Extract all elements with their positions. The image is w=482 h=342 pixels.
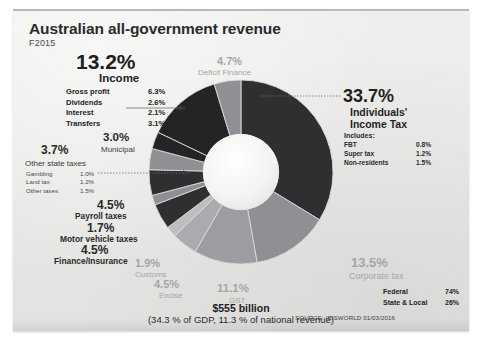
individuals-label-line1: Individuals' [350, 107, 407, 119]
source-attribution: SOURCE: IBISWORLD 01/03/2016 [295, 314, 395, 321]
finance-insurance-label: Finance/Insurance [54, 257, 128, 267]
individuals-income-tax-label: Individuals' Income Tax [350, 107, 407, 130]
row-value: 1.0% [80, 170, 104, 178]
list-item: Gross profit 6.3% [66, 87, 174, 98]
row-value: 26% [445, 297, 469, 308]
other-state-taxes-label: Other state taxes [25, 159, 86, 168]
individuals-label-line2: Income Tax [350, 119, 407, 131]
finance-insurance-percent: 4.5% [81, 244, 108, 256]
list-item: Land tax 1.2% [26, 178, 104, 186]
row-value: 1.5% [80, 187, 104, 195]
table-row: Federal 74% [383, 286, 469, 297]
municipal-label: Municipal [101, 145, 135, 154]
row-value: 1.2% [416, 150, 440, 159]
corporate-tax-label: Corporate tax [349, 271, 404, 281]
row-label: State & Local [383, 297, 427, 308]
customs-percent: 1.9% [135, 258, 160, 269]
table-row: State & Local 26% [383, 297, 469, 308]
row-value: 0.8% [416, 141, 440, 150]
motor-vehicle-taxes-percent: 1.7% [87, 222, 114, 234]
row-label: Gambling [26, 170, 52, 178]
row-label: Federal [383, 286, 408, 297]
gst-percent: 11.1% [217, 283, 249, 295]
row-label: Super tax [344, 150, 374, 159]
row-value: 1.5% [416, 159, 440, 168]
other-state-taxes-percent: 3.7% [41, 144, 68, 156]
donut-center-hole [203, 134, 279, 210]
row-label: FBT [344, 141, 357, 150]
excise-label: Excise [159, 291, 183, 300]
income-breakdown-list: Gross profit 6.3% Dividends 2.6% Interes… [66, 87, 174, 129]
row-value: 1.2% [80, 178, 104, 186]
deficit-finance-percent: 4.7% [217, 56, 242, 67]
row-value: 2.6% [148, 98, 174, 109]
row-label: Interest [66, 108, 93, 119]
row-value: 2.1% [148, 108, 174, 119]
income-label: Income [99, 72, 139, 85]
row-label: Dividends [66, 98, 102, 109]
individuals-income-tax-percent: 33.7% [343, 87, 394, 105]
total-revenue-detail: (34.3 % of GDP, 11.3 % of national reven… [13, 314, 469, 325]
individuals-includes-label: Includes: [344, 132, 375, 139]
excise-percent: 4.5% [154, 279, 179, 290]
row-label: Land tax [26, 178, 50, 186]
list-item: Other taxes 1.5% [26, 187, 104, 195]
row-value: 6.3% [148, 87, 174, 98]
list-item: Transfers 3.1% [66, 119, 174, 130]
federal-state-split-table: Federal 74% State & Local 26% [383, 286, 469, 308]
row-label: Non-residents [344, 159, 388, 168]
list-item: Gambling 1.0% [26, 170, 104, 178]
list-item: Interest 2.1% [66, 108, 174, 119]
row-label: Other taxes [26, 187, 58, 195]
list-item: FBT 0.8% [344, 141, 440, 150]
list-item: Non-residents 1.5% [344, 159, 440, 168]
deficit-finance-label: Deficit Finance [198, 68, 251, 77]
list-item: Super tax 1.2% [344, 150, 440, 159]
row-label: Transfers [66, 119, 100, 130]
infographic-poster: Australian all-government revenue F2015 … [13, 9, 469, 331]
row-label: Gross profit [66, 87, 109, 98]
list-item: Dividends 2.6% [66, 98, 174, 109]
individuals-includes-list: FBT 0.8% Super tax 1.2% Non-residents 1.… [344, 141, 440, 167]
corporate-tax-percent: 13.5% [351, 256, 388, 269]
payroll-taxes-percent: 4.5% [97, 199, 124, 211]
municipal-percent: 3.0% [103, 132, 129, 144]
row-value: 74% [445, 286, 469, 297]
row-value: 3.1% [148, 119, 174, 130]
other-state-taxes-list: Gambling 1.0% Land tax 1.2% Other taxes … [26, 170, 104, 195]
income-percent: 13.2% [76, 51, 136, 72]
